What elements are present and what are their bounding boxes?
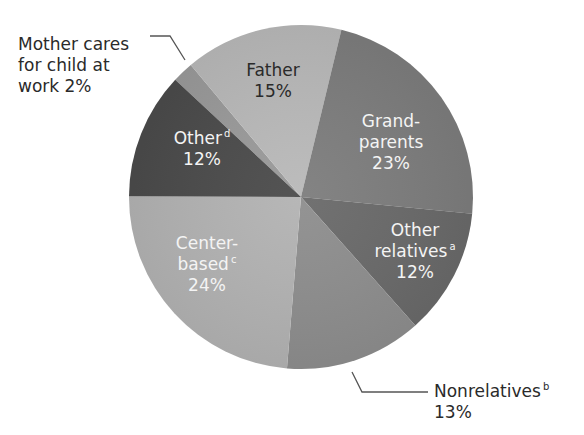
label-line: Father [238, 60, 308, 81]
footnote-marker: b [543, 381, 549, 392]
nonrelatives-leader-line [352, 372, 428, 392]
label-line: Grand- [351, 111, 431, 132]
label-text: Other [174, 128, 222, 148]
label-line: Center- [167, 233, 247, 254]
label-nonrelatives: Nonrelativesb 13% [434, 381, 549, 423]
label-text: based [178, 254, 229, 274]
footnote-marker: c [231, 254, 237, 265]
label-center-based: Center- basedc 24% [167, 233, 247, 296]
label-line: Nonrelativesb [434, 381, 549, 402]
footnote-marker: d [224, 128, 230, 139]
label-line: 12% [370, 262, 460, 283]
label-line: basedc [167, 254, 247, 275]
label-grandparents: Grand- parents 23% [351, 111, 431, 174]
label-line: 15% [238, 81, 308, 102]
label-line: relativesa [370, 241, 460, 262]
label-text: relatives [374, 241, 447, 261]
footnote-marker: a [449, 241, 455, 252]
label-father: Father 15% [238, 60, 308, 102]
label-line: Other [370, 220, 460, 241]
label-mother-cares: Mother cares for child at work 2% [18, 34, 129, 97]
label-other: Otherd 12% [162, 128, 242, 170]
mother-leader-line [150, 36, 185, 60]
label-line: Otherd [162, 128, 242, 149]
label-line: 12% [162, 149, 242, 170]
label-line: 24% [167, 275, 247, 296]
label-line: 13% [434, 402, 549, 423]
label-line: for child at [18, 55, 129, 76]
label-other-relatives: Other relativesa 12% [370, 220, 460, 283]
label-line: work 2% [18, 76, 129, 97]
label-line: 23% [351, 153, 431, 174]
label-text: Nonrelatives [434, 381, 541, 401]
label-line: Mother cares [18, 34, 129, 55]
label-line: parents [351, 132, 431, 153]
